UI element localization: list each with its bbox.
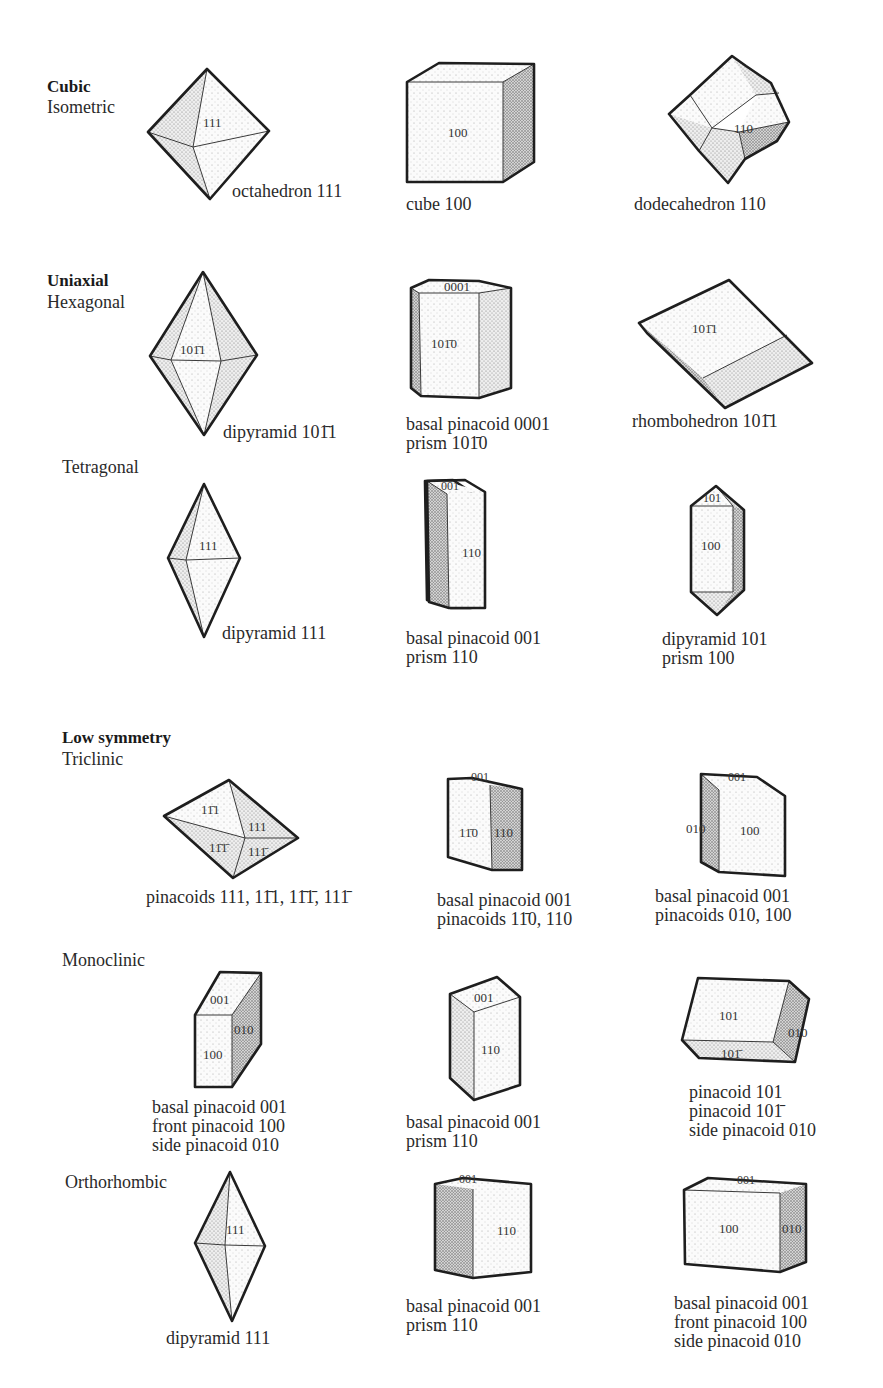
face-label-side: 010 <box>234 1022 254 1037</box>
face-label: 11̄1̄ <box>209 840 230 855</box>
face-label-basal: 001 <box>441 479 459 493</box>
face-label-prism: 110 <box>481 1042 500 1057</box>
tet-prism-body: 001 110 <box>425 478 489 612</box>
caption-mono-b: basal pinacoid 001 prism 110 <box>406 1113 541 1151</box>
tet-prism-dipyramid-diagram: 101 100 <box>689 484 749 618</box>
group-title-uniaxial: Uniaxial <box>47 271 108 291</box>
system-title-orthorhombic: Orthorhombic <box>65 1172 167 1193</box>
face-label: 110 <box>494 825 513 840</box>
caption-hex-dipyramid: dipyramid 101̄1 <box>223 423 337 442</box>
face-label: 111 <box>226 1222 245 1237</box>
face-label-basal: 001 <box>728 770 746 784</box>
face-label-prism: 100 <box>701 538 721 553</box>
rhombohedron-diagram: 101̄1 <box>637 278 815 412</box>
caption-hex-prism: basal pinacoid 0001 prism 101̄0 <box>406 415 550 453</box>
system-title-hexagonal: Hexagonal <box>47 292 125 313</box>
caption-octahedron: octahedron 111 <box>232 182 342 201</box>
caption-dodecahedron: dodecahedron 110 <box>634 195 766 214</box>
face-label: 111 <box>203 115 222 130</box>
face-label: 110 <box>734 121 753 136</box>
mono-b-diagram: 001 110 <box>448 975 524 1105</box>
caption-ortho-dipyramid: dipyramid 111 <box>166 1329 270 1348</box>
tri-prism-b-diagram: 001 010 100 <box>699 772 789 878</box>
dodecahedron-diagram: 110 <box>668 54 792 190</box>
system-title-triclinic: Triclinic <box>62 749 123 770</box>
caption-mono-a: basal pinacoid 001 front pinacoid 100 si… <box>152 1098 287 1155</box>
caption-tri-prism-b: basal pinacoid 001 pinacoids 010, 100 <box>655 887 792 925</box>
face-label: 100 <box>448 125 468 140</box>
hex-prism-diagram: 0001 101̄0 <box>409 278 513 400</box>
ortho-box-diagram: 001 100 010 <box>682 1176 816 1278</box>
tri-pinacoids-diagram: 11̄1 111 11̄1̄ 111̄ <box>163 778 301 880</box>
mono-c-diagram: 101 010 101̄ <box>681 976 811 1068</box>
caption-cube: cube 100 <box>406 195 471 214</box>
face-label-basal: 001 <box>459 1172 477 1186</box>
system-title-tetragonal: Tetragonal <box>62 457 139 478</box>
caption-tet-dipyramid: dipyramid 111 <box>222 624 326 643</box>
face-label-basal: 001 <box>210 992 230 1007</box>
caption-ortho-box: basal pinacoid 001 front pinacoid 100 si… <box>674 1294 809 1351</box>
cube-diagram: 100 <box>407 61 535 186</box>
face-label-side: 010 <box>782 1221 802 1236</box>
face-label-basal: 001 <box>471 770 489 784</box>
face-label-prism: 110 <box>462 545 481 560</box>
face-label: 111̄ <box>248 844 269 859</box>
face-label-basal: 001 <box>474 990 494 1005</box>
face-label: 010 <box>788 1025 808 1040</box>
face-label-basal: 001 <box>737 1173 755 1187</box>
face-label: 111 <box>199 538 218 553</box>
face-label-front: 100 <box>719 1221 739 1236</box>
face-label-prism: 101̄0 <box>431 336 457 351</box>
system-title-isometric: Isometric <box>47 97 115 118</box>
tet-dipyramid-diagram: 111 <box>166 482 244 640</box>
tri-prism-a-diagram: 001 11̄0 110 <box>446 775 526 875</box>
caption-tri-prism-a: basal pinacoid 001 pinacoids 11̄0, 110 <box>437 891 572 929</box>
caption-rhombohedron: rhombohedron 101̄1 <box>632 412 778 431</box>
face-label: 101̄1 <box>692 321 718 336</box>
ortho-prism-diagram: 001 110 <box>433 1175 535 1281</box>
caption-ortho-prism: basal pinacoid 001 prism 110 <box>406 1297 541 1335</box>
face-label: 11̄1 <box>201 802 220 817</box>
caption-mono-c: pinacoid 101 pinacoid 101̄ side pinacoid… <box>689 1083 816 1140</box>
caption-tet-prism-dipyramid: dipyramid 101 prism 100 <box>662 630 768 668</box>
face-label: 101 <box>719 1008 739 1023</box>
ortho-dipyramid-diagram: 111 <box>193 1170 269 1324</box>
face-label: 111 <box>248 819 267 834</box>
mono-a-diagram: 001 010 100 <box>194 970 268 1092</box>
face-label-side: 010 <box>686 821 706 836</box>
system-title-monoclinic: Monoclinic <box>62 950 145 971</box>
group-title-cubic: Cubic <box>47 77 90 97</box>
caption-tri-pinacoids: pinacoids 111, 11̄1, 11̄1̄, 111̄ <box>146 888 349 907</box>
group-title-low-symmetry: Low symmetry <box>62 728 171 748</box>
face-label-dipyramid: 101 <box>703 491 721 505</box>
hex-dipyramid-diagram: 101̄1 <box>149 270 259 438</box>
face-label-prism: 110 <box>497 1223 516 1238</box>
caption-tet-prism: basal pinacoid 001 prism 110 <box>406 629 541 667</box>
face-label: 101̄1 <box>180 342 206 357</box>
face-label-front: 100 <box>740 823 760 838</box>
face-label-basal: 0001 <box>444 279 470 294</box>
face-label-front: 100 <box>203 1047 223 1062</box>
face-label: 11̄0 <box>459 825 478 840</box>
face-label: 101̄ <box>721 1046 743 1061</box>
